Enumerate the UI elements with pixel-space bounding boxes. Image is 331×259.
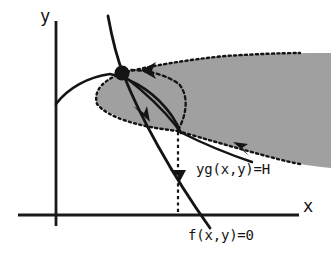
phase-plane-figure: y x yg(x,y)=H f(x,y)=0 xyxy=(0,0,331,259)
equilibrium-dot xyxy=(114,65,129,80)
figure-canvas xyxy=(0,0,331,259)
x-axis-label: x xyxy=(303,198,313,215)
curve-f-label: f(x,y)=0 xyxy=(188,228,254,242)
curve-h-label: yg(x,y)=H xyxy=(196,162,270,176)
y-axis-label: y xyxy=(40,8,50,25)
